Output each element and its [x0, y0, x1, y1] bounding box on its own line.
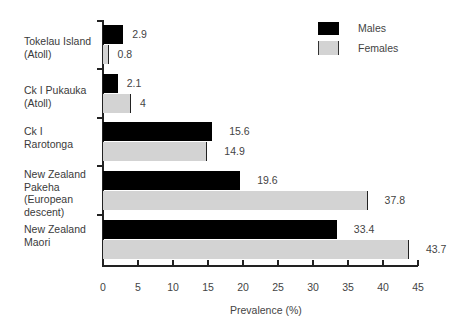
bar-females [103, 94, 131, 113]
value-label: 33.4 [354, 223, 374, 235]
bar-females [103, 240, 409, 259]
x-axis-tick [312, 260, 314, 266]
x-tick-label: 15 [193, 281, 223, 293]
x-tick-label: 25 [263, 281, 293, 293]
legend-swatch-males [318, 22, 339, 35]
bar-females [103, 142, 207, 161]
bar-males [103, 171, 240, 190]
bar-females [103, 45, 109, 64]
y-axis-tick [97, 165, 103, 167]
value-label: 15.6 [229, 125, 249, 137]
x-axis-tick [207, 260, 209, 266]
legend-swatch-females [318, 41, 339, 55]
bar-females [103, 191, 368, 210]
bar-males [103, 74, 118, 93]
y-axis-tick [97, 68, 103, 70]
x-tick-label: 35 [333, 281, 363, 293]
x-axis-tick [102, 260, 104, 266]
category-label: New Zealand Pakeha (European descent) [24, 168, 86, 218]
value-label: 37.8 [385, 194, 405, 206]
legend-label-males: Males [358, 22, 386, 34]
bar-males [103, 220, 337, 239]
value-label: 4 [140, 97, 146, 109]
bar-males [103, 25, 123, 44]
value-label: 19.6 [257, 174, 277, 186]
category-label: Ck I Rarotonga [24, 125, 73, 150]
x-tick-label: 0 [88, 281, 118, 293]
x-axis-tick [277, 260, 279, 266]
value-label: 0.8 [118, 48, 133, 60]
value-label: 2.1 [127, 77, 142, 89]
y-axis-tick [97, 117, 103, 119]
y-axis-tick [97, 214, 103, 216]
x-axis-tick [242, 260, 244, 266]
x-tick-label: 10 [158, 281, 188, 293]
x-tick-label: 5 [123, 281, 153, 293]
x-axis-tick [172, 260, 174, 266]
x-tick-label: 20 [228, 281, 258, 293]
x-tick-label: 30 [298, 281, 328, 293]
legend-label-females: Females [358, 42, 398, 54]
category-label: New Zealand Maori [24, 223, 86, 248]
x-axis-title: Prevalence (%) [230, 304, 302, 316]
y-axis-tick [97, 20, 103, 22]
x-axis-tick [347, 260, 349, 266]
x-axis-tick [137, 260, 139, 266]
category-label: Ck I Pukauka (Atoll) [24, 84, 86, 109]
x-tick-label: 45 [403, 281, 433, 293]
x-axis-tick [417, 260, 419, 266]
x-axis [102, 265, 418, 267]
x-axis-tick [382, 260, 384, 266]
prevalence-bar-chart: 051015202530354045Tokelau Island (Atoll)… [0, 0, 468, 333]
value-label: 43.7 [426, 243, 446, 255]
category-label: Tokelau Island (Atoll) [24, 35, 91, 60]
value-label: 14.9 [224, 145, 244, 157]
x-tick-label: 40 [368, 281, 398, 293]
value-label: 2.9 [132, 28, 147, 40]
bar-males [103, 122, 212, 141]
